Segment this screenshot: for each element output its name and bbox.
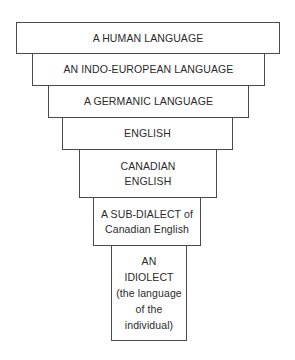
level-english: ENGLISH bbox=[62, 117, 233, 150]
level-indo-european-language: AN INDO-EUROPEAN LANGUAGE bbox=[32, 53, 265, 86]
level-label: A HUMAN LANGUAGE bbox=[93, 31, 204, 46]
level-sub-dialect: A SUB-DIALECT of Canadian English bbox=[93, 197, 201, 246]
level-label: A GERMANIC LANGUAGE bbox=[84, 94, 213, 109]
level-human-language: A HUMAN LANGUAGE bbox=[16, 22, 280, 54]
level-label: ENGLISH bbox=[124, 126, 171, 141]
level-label: CANADIAN ENGLISH bbox=[120, 159, 175, 189]
level-canadian-english: CANADIAN ENGLISH bbox=[79, 149, 217, 198]
level-label: AN INDO-EUROPEAN LANGUAGE bbox=[64, 62, 234, 77]
level-germanic-language: A GERMANIC LANGUAGE bbox=[48, 85, 249, 118]
level-label: A SUB-DIALECT of Canadian English bbox=[101, 207, 193, 237]
level-label: AN IDIOLECT (the language of the individ… bbox=[116, 253, 182, 333]
level-idiolect: AN IDIOLECT (the language of the individ… bbox=[111, 245, 187, 341]
